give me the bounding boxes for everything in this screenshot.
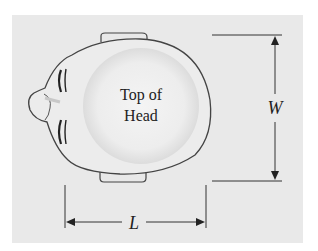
arrow-right-icon — [196, 218, 205, 226]
arrow-left-icon — [66, 218, 75, 226]
head-outline — [29, 39, 211, 174]
head-label-line1: Top of — [120, 86, 163, 104]
width-label: W — [268, 98, 285, 118]
length-label: L — [128, 213, 139, 233]
head-diagram: Top of Head W L — [0, 0, 318, 251]
head-label-line2: Head — [124, 107, 158, 124]
arrow-up-icon — [271, 36, 279, 45]
crown-shading — [83, 48, 199, 164]
arrow-down-icon — [271, 171, 279, 180]
